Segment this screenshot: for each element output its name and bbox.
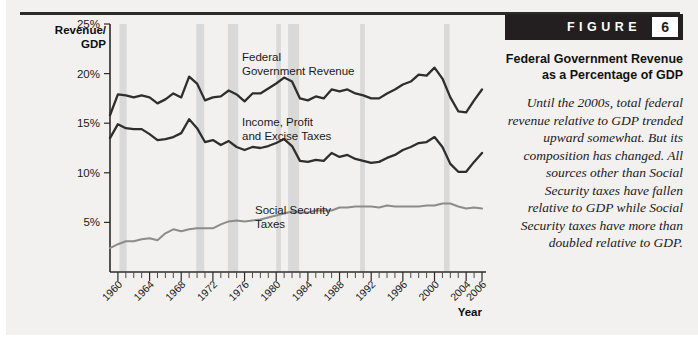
series-annotation-label: and Excise Taxes — [242, 130, 332, 142]
x-axis-tick-labels: 1960196419681972197619801984198819921996… — [99, 278, 488, 303]
x-tick-label: 1976 — [226, 278, 251, 303]
series-annotation-label: Government Revenue — [242, 65, 355, 77]
figure-container: 25%20%15%10%5% 1960196419681972197619801… — [0, 0, 698, 343]
x-tick-label: 1992 — [353, 278, 378, 303]
x-axis-title: Year — [458, 306, 483, 318]
series-annotation-label: Income, Profit — [242, 116, 314, 128]
series-annotation-label: Taxes — [255, 218, 285, 230]
x-tick-label: 1960 — [99, 278, 124, 303]
revenue-line-chart: 25%20%15%10%5% 1960196419681972197619801… — [20, 14, 490, 324]
x-tick-label: 1980 — [258, 278, 283, 303]
y-tick-label: 15% — [77, 117, 100, 129]
recession-band — [196, 24, 204, 272]
x-tick-label: 1988 — [321, 278, 346, 303]
x-tick-label: 1996 — [384, 278, 409, 303]
x-tick-label: 1968 — [163, 278, 188, 303]
page-edge-left — [0, 0, 6, 343]
x-tick-label: 2000 — [416, 278, 441, 303]
y-axis-title-line1: Revenue/ — [55, 24, 107, 36]
x-tick-label: 1984 — [289, 278, 314, 303]
figure-badge-number: 6 — [652, 17, 678, 37]
chart-panel: 25%20%15%10%5% 1960196419681972197619801… — [20, 14, 490, 324]
series-annotation-label: Federal — [242, 51, 281, 63]
y-tick-label: 20% — [77, 68, 100, 80]
recession-bands-group — [119, 24, 449, 272]
series-annotation-label: Social Security — [255, 204, 331, 216]
figure-badge: FIGURE 6 — [505, 14, 683, 40]
recession-band — [444, 24, 450, 272]
recession-band — [119, 24, 126, 272]
figure-caption: Until the 2000s, total federal revenue r… — [505, 94, 683, 252]
figure-side-panel: FIGURE 6 Federal Government Revenue as a… — [505, 14, 683, 314]
y-tick-label: 5% — [83, 216, 100, 228]
figure-title: Federal Government Revenue as a Percenta… — [505, 51, 683, 83]
figure-badge-word: FIGURE — [553, 14, 650, 40]
y-tick-label: 10% — [77, 167, 100, 179]
y-axis-title-line2: GDP — [81, 38, 106, 50]
page-edge-bottom — [0, 335, 698, 343]
x-tick-label: 1972 — [194, 278, 219, 303]
recession-band — [360, 24, 365, 272]
x-tick-label: 1964 — [131, 278, 156, 303]
